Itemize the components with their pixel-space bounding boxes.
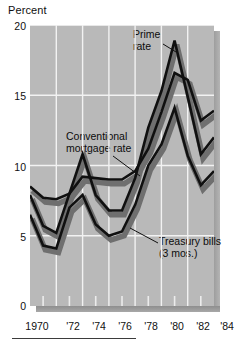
chart-figure: Percent 20 15 10 5 0 1970 '72 '74 '76 '7…	[0, 0, 247, 346]
x-axis-ticks	[43, 296, 201, 306]
bottom-rule	[12, 338, 136, 339]
chart-svg	[0, 0, 247, 346]
